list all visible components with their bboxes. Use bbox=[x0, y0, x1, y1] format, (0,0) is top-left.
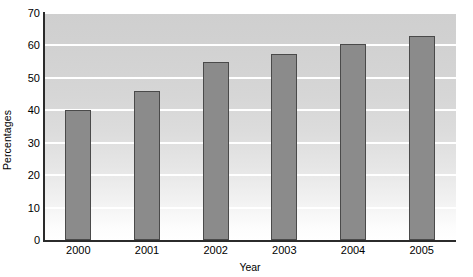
x-axis-line bbox=[43, 240, 456, 242]
bar bbox=[203, 62, 229, 240]
gridline bbox=[44, 109, 456, 111]
bar bbox=[409, 36, 435, 240]
y-axis-tick-label: 20 bbox=[28, 170, 40, 181]
y-axis-tick-label: 30 bbox=[28, 137, 40, 148]
y-axis-title-label: Percentages bbox=[1, 110, 13, 170]
x-axis-tick-labels: 200020012002200320042005 bbox=[44, 244, 456, 260]
gridline bbox=[44, 142, 456, 144]
x-axis-tick-label: 2003 bbox=[272, 244, 296, 256]
gridline bbox=[44, 207, 456, 209]
x-axis-tick-label: 2000 bbox=[66, 244, 90, 256]
x-axis-tick-label: 2005 bbox=[409, 244, 433, 256]
y-axis-tick-label: 0 bbox=[34, 235, 40, 246]
bar-chart-figure: Percentages 010203040506070 200020012002… bbox=[0, 0, 473, 277]
x-axis-tick-label: 2004 bbox=[341, 244, 365, 256]
y-axis-tick-label: 60 bbox=[28, 40, 40, 51]
plot-area bbox=[44, 13, 456, 240]
y-axis-line bbox=[43, 12, 45, 241]
gridline bbox=[44, 174, 456, 176]
y-axis-tick-labels: 010203040506070 bbox=[14, 0, 43, 277]
x-axis-tick-label: 2001 bbox=[135, 244, 159, 256]
x-axis-title: Year bbox=[44, 261, 456, 273]
bar bbox=[134, 91, 160, 240]
bar bbox=[340, 44, 366, 240]
y-axis-tick-label: 50 bbox=[28, 72, 40, 83]
gridline bbox=[44, 77, 456, 79]
x-axis-tick-label: 2002 bbox=[203, 244, 227, 256]
gridline bbox=[44, 44, 456, 46]
gridline bbox=[44, 13, 456, 14]
y-axis-title: Percentages bbox=[0, 95, 14, 185]
y-axis-tick-label: 70 bbox=[28, 8, 40, 19]
y-axis-tick-label: 40 bbox=[28, 105, 40, 116]
y-axis-tick-label: 10 bbox=[28, 202, 40, 213]
bar bbox=[271, 54, 297, 240]
bar bbox=[65, 110, 91, 240]
